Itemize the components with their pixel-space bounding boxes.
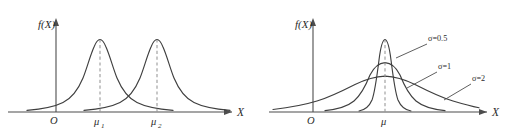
x-axis-right [269, 109, 487, 115]
y-axis-label-right: f(X) [295, 18, 312, 31]
series-label-sigma-1: σ=1 [438, 62, 451, 71]
origin-label-right: O [307, 115, 315, 126]
x-axis-label-right: X [491, 106, 500, 118]
mu1-label: μ [93, 116, 99, 127]
figure-root: f(X) X O μ 1 μ 2 [0, 0, 518, 136]
mu-label: μ [380, 116, 386, 127]
mu1-subscript: 1 [101, 122, 105, 130]
y-axis-label-left: f(X) [38, 18, 55, 31]
mu1-tick-label: μ 1 [93, 116, 105, 130]
leader-line-sigma-1 [407, 72, 437, 88]
x-axis-label-left: X [236, 106, 245, 118]
leader-line-sigma-2 [444, 84, 471, 100]
leader-line-sigma-05 [396, 44, 427, 58]
series-label-sigma-2: σ=2 [472, 74, 485, 83]
x-axis-left [8, 109, 232, 115]
mu2-subscript: 2 [158, 122, 162, 130]
panel-left-two-means: f(X) X O μ 1 μ 2 [0, 0, 259, 136]
mu2-tick-label: μ 2 [150, 116, 162, 130]
y-axis-left [53, 18, 59, 112]
panel-right-three-sigmas: σ=0.5 σ=1 σ=2 f(X) X O μ [259, 0, 518, 136]
series-label-sigma-05: σ=0.5 [428, 34, 447, 43]
x-axis-arrow-icon [479, 109, 487, 115]
y-axis-right [310, 18, 316, 112]
mu2-label: μ [150, 116, 156, 127]
origin-label-left: O [50, 115, 58, 126]
